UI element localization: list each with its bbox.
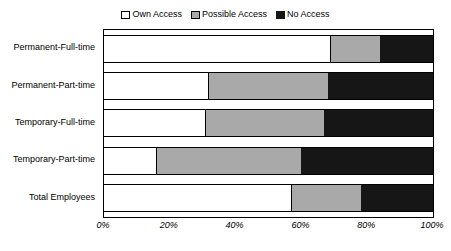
- stacked-bar-chart: Own Access Possible Access No Access Per…: [0, 0, 451, 251]
- category-axis-labels: Permanent-Full-time Permanent-Part-time …: [0, 29, 99, 216]
- bar-segment-own-access: [104, 73, 209, 99]
- bar-segment-no-access: [328, 73, 433, 99]
- category-label: Temporary-Full-time: [0, 104, 99, 141]
- bar-segment-own-access: [104, 148, 157, 174]
- legend-item-own-access: Own Access: [121, 9, 182, 20]
- stacked-bar: [104, 35, 433, 63]
- bar-row: [104, 105, 433, 142]
- bar-row: [104, 30, 433, 67]
- plot-area: [103, 29, 434, 218]
- bar-segment-own-access: [104, 36, 331, 62]
- category-label: Temporary-Part-time: [0, 141, 99, 178]
- chart-legend: Own Access Possible Access No Access: [0, 9, 451, 20]
- value-axis-labels: 0%20%40%60%80%100%: [103, 219, 432, 233]
- category-label: Permanent-Part-time: [0, 66, 99, 103]
- bar-segment-possible-access: [331, 36, 380, 62]
- bar-segment-no-access: [361, 185, 433, 211]
- stacked-bar: [104, 109, 433, 137]
- x-axis-tick-label: 20%: [160, 219, 178, 231]
- bar-segment-possible-access: [292, 185, 361, 211]
- stacked-bar: [104, 72, 433, 100]
- stacked-bar: [104, 147, 433, 175]
- bar-segment-no-access: [301, 148, 433, 174]
- bar-row: [104, 67, 433, 104]
- bar-segment-possible-access: [157, 148, 302, 174]
- stacked-bar: [104, 184, 433, 212]
- category-label: Permanent-Full-time: [0, 29, 99, 66]
- legend-label-own-access: Own Access: [132, 9, 182, 20]
- x-axis-tick-label: 60%: [291, 219, 309, 231]
- bar-segment-possible-access: [206, 110, 324, 136]
- legend-item-possible-access: Possible Access: [191, 9, 267, 20]
- bar-segment-own-access: [104, 110, 206, 136]
- bars-container: [104, 30, 433, 217]
- own-access-swatch-icon: [121, 11, 130, 19]
- bar-segment-no-access: [380, 36, 433, 62]
- x-axis-tick-label: 100%: [420, 219, 443, 231]
- x-axis-tick-label: 80%: [357, 219, 375, 231]
- bar-segment-possible-access: [209, 73, 327, 99]
- x-axis-tick-label: 40%: [226, 219, 244, 231]
- bar-segment-own-access: [104, 185, 292, 211]
- legend-item-no-access: No Access: [276, 9, 330, 20]
- no-access-swatch-icon: [276, 11, 285, 19]
- x-axis-tick-label: 0%: [96, 219, 109, 231]
- legend-label-possible-access: Possible Access: [202, 9, 267, 20]
- bar-row: [104, 180, 433, 217]
- possible-access-swatch-icon: [191, 11, 200, 19]
- category-label: Total Employees: [0, 179, 99, 216]
- legend-label-no-access: No Access: [287, 9, 330, 20]
- bar-row: [104, 142, 433, 179]
- bar-segment-no-access: [324, 110, 433, 136]
